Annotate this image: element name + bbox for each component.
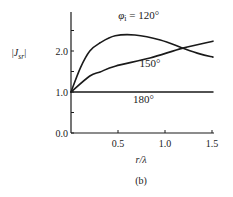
x-tick-label: 1.0	[159, 138, 172, 149]
x-tick-label: 0.5	[112, 138, 125, 149]
y-tick-label: 2.0	[56, 46, 69, 57]
line-chart: 0.01.02.0 0.51.01.5 φi = 120°150°180° |J…	[0, 0, 233, 197]
curve-label-2: 180°	[133, 93, 154, 105]
x-axis-label: r/λ	[135, 154, 147, 165]
y-tick-label: 1.0	[56, 87, 69, 98]
curve-label-0: φi = 120°	[118, 9, 159, 23]
y-tick-label: 0.0	[56, 128, 69, 139]
x-tick-label: 1.5	[206, 138, 219, 149]
y-axis-label: |Jsr|	[12, 47, 26, 61]
y-axis: 0.01.02.0	[56, 12, 75, 139]
x-axis: 0.51.01.5	[71, 130, 218, 149]
figure-caption: (b)	[135, 175, 147, 187]
curve-label-1: 150°	[140, 57, 161, 69]
curve-labels: φi = 120°150°180°	[118, 9, 160, 105]
